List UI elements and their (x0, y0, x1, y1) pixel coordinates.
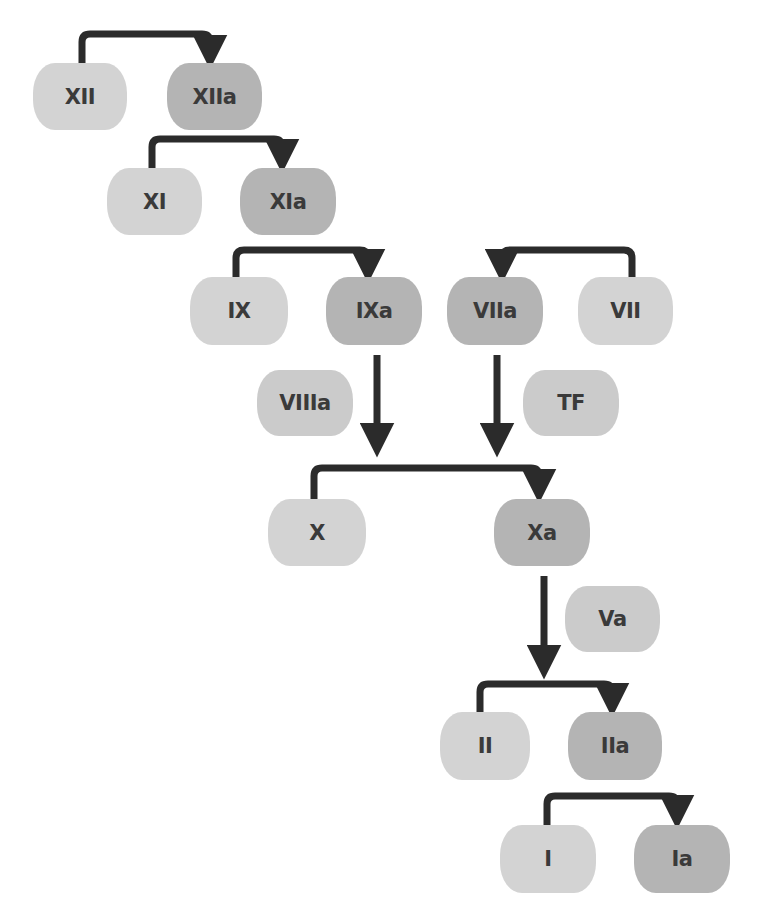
node-factor-x: X (268, 499, 366, 566)
node-factor-xi: XI (107, 168, 202, 235)
node-factor-xiia: XIIa (167, 63, 262, 130)
coagulation-cascade-diagram: XII XIIa XI XIa IX IXa VIIa VII VIIIa TF… (0, 0, 761, 919)
node-factor-viia: VIIa (447, 277, 543, 345)
node-factor-i: I (500, 825, 596, 893)
arrow-x-to-xa (314, 468, 539, 499)
node-factor-xii: XII (33, 63, 127, 130)
arrow-i-to-ia (547, 796, 677, 825)
arrow-ii-to-iia (480, 684, 612, 712)
arrow-xi-to-xia (152, 139, 282, 168)
node-cofactor-viiia: VIIIa (257, 370, 353, 436)
node-factor-xia: XIa (240, 168, 336, 235)
node-factor-xa: Xa (494, 499, 590, 566)
arrow-vii-to-viia (502, 250, 632, 277)
node-factor-ixa: IXa (326, 277, 422, 345)
node-tissue-factor: TF (523, 370, 619, 436)
node-factor-iia: IIa (568, 712, 662, 780)
node-cofactor-va: Va (565, 586, 660, 652)
arrow-xii-to-xiia (82, 34, 210, 63)
arrows-layer (0, 0, 761, 919)
node-factor-ii: II (440, 712, 530, 780)
arrow-ix-to-ixa (236, 250, 368, 277)
node-factor-ia: Ia (634, 825, 730, 893)
node-factor-ix: IX (190, 277, 288, 345)
node-factor-vii: VII (578, 277, 673, 345)
